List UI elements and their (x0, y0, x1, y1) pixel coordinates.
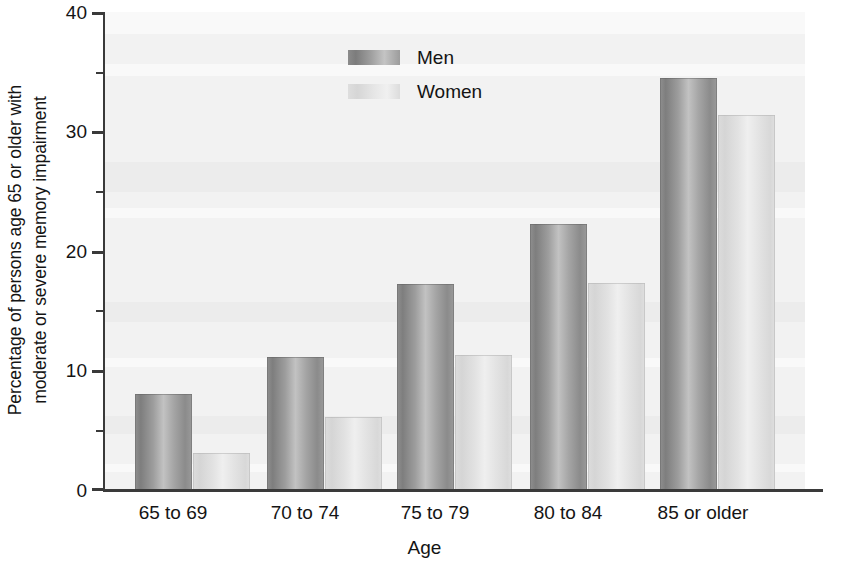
y-tick-35 (96, 72, 105, 74)
y-tick-15 (96, 310, 105, 312)
bar-women-80-to-84 (588, 283, 645, 490)
bar-men-75-to-79 (397, 284, 454, 490)
bar-men-70-to-74 (267, 357, 324, 490)
bar-women-75-to-79 (455, 355, 512, 490)
plot-area: Men Women (103, 12, 805, 490)
bar-men-80-to-84 (530, 224, 587, 490)
bar-men-65-to-69 (135, 394, 192, 490)
y-tick-30 (92, 131, 105, 134)
legend-item-men: Men (348, 40, 482, 74)
bar-men-85-or-older (660, 78, 717, 490)
legend-item-women: Women (348, 74, 482, 108)
legend-label-women: Women (417, 82, 482, 101)
x-tick-label-4: 85 or older (628, 502, 778, 524)
bar-women-70-to-74 (325, 417, 382, 490)
x-tick-label-3: 80 to 84 (498, 502, 638, 524)
y-tick-10 (92, 370, 105, 373)
x-axis-title: Age (0, 538, 849, 558)
legend: Men Women (348, 40, 482, 108)
x-axis-line (103, 489, 823, 492)
bar-women-85-or-older (718, 115, 775, 490)
x-tick-label-0: 65 to 69 (103, 502, 243, 524)
legend-swatch-women-icon (348, 84, 400, 99)
y-tick-label-40: 40 (45, 3, 87, 22)
y-tick-label-0: 0 (45, 481, 87, 500)
x-tick-label-1: 70 to 74 (235, 502, 375, 524)
y-tick-20 (92, 251, 105, 254)
bar-chart: Percentage of persons age 65 or older wi… (0, 0, 849, 572)
y-tick-label-20: 20 (45, 242, 87, 261)
y-axis-title-line-1: Percentage of persons age 65 or older wi… (5, 85, 25, 415)
y-tick-label-30: 30 (45, 122, 87, 141)
bar-women-65-to-69 (193, 453, 250, 490)
legend-swatch-men-icon (348, 50, 400, 65)
y-tick-25 (96, 191, 105, 193)
y-tick-40 (92, 12, 105, 15)
y-tick-label-10: 10 (45, 361, 87, 380)
legend-label-men: Men (417, 48, 454, 67)
x-tick-label-2: 75 to 79 (365, 502, 505, 524)
y-tick-5 (96, 430, 105, 432)
